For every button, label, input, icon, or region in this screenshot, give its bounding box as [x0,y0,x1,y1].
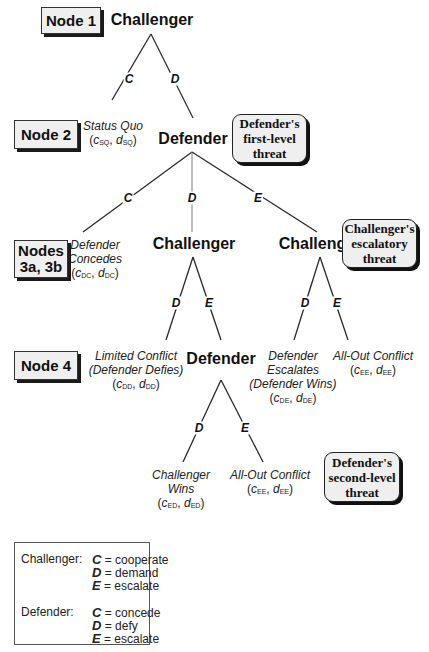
branch-label-n1-c: C [124,73,135,86]
outcome-dd-line2: (Defender Defies) [89,363,184,377]
player-node3a-challenger: Challenger [153,235,236,253]
branch-label-n2-d: D [187,192,198,205]
threat-second-line2: second-level [328,470,395,485]
threat-escalatory-line2: escalatory [351,236,407,251]
threat-defender-second-level: Defender's second-level threat [324,452,400,502]
branch-label-n4-e: E [240,422,250,435]
legend-defender-label: Defender: [21,605,74,619]
threat-first-line1: Defender's [240,116,300,131]
outcome-ed-line1: Challenger [152,468,210,482]
node-1-label: Node 1 [41,7,101,34]
outcome-de-line2: Escalates [249,363,336,377]
node-4-label: Node 4 [14,351,78,380]
outcome-status-quo-label: Status Quo [83,119,143,133]
player-node4-defender: Defender [186,350,255,368]
threat-escalatory-line1: Challenger's [344,221,414,236]
outcome-challenger-wins: Challenger Wins (cED, dED) [152,468,210,513]
outcome-limited-conflict: Limited Conflict (Defender Defies) (cDD,… [89,349,184,394]
payoff-de: (cDE, dDE) [249,391,336,408]
threat-second-line1: Defender's [332,455,392,470]
outcome-all-out-conflict-2: All-Out Conflict (cEE, dEE) [230,468,310,499]
outcome-dc-line2: Concedes [68,252,122,266]
outcome-defender-concedes: Defender Concedes (cDC, dDC) [68,238,122,283]
player-node2-defender: Defender [158,130,227,148]
threat-challenger-escalatory: Challenger's escalatory threat [342,219,417,268]
legend-challenger-label: Challenger: [21,552,82,566]
payoff-sq: (cSQ, dSQ) [83,133,143,150]
outcome-de-line3: (Defender Wins) [249,377,336,391]
outcome-ee1-line1: All-Out Conflict [333,349,413,363]
threat-defender-first-level: Defender's first-level threat [232,114,307,163]
legend-box: Challenger: C = cooperate D = demand E =… [14,542,150,645]
payoff-ee1: (cEE, dEE) [333,363,413,380]
branch-label-n3b-e: E [332,297,342,310]
branch-label-n2-e: E [253,192,263,205]
branch-label-n3b-d: D [300,297,311,310]
threat-escalatory-line3: threat [363,251,397,266]
outcome-dc-line1: Defender [68,238,122,252]
branch-label-n1-d: D [170,73,181,86]
outcome-defender-escalates: Defender Escalates (Defender Wins) (cDE,… [249,349,336,408]
node-3-label: Nodes 3a, 3b [14,240,68,278]
payoff-dd: (cDD, dDD) [89,377,184,394]
node-3-text-line2: 3a, 3b [20,259,63,275]
payoff-ee2: (cEE, dEE) [230,482,310,499]
node-2-text: Node 2 [21,127,71,143]
node-2-label: Node 2 [14,120,78,149]
outcome-status-quo: Status Quo (cSQ, dSQ) [83,119,143,150]
legend-defender-e: E = escalate [92,631,159,646]
branch-label-n3a-d: D [171,297,182,310]
player-node1-challenger: Challenger [111,11,194,29]
branch-label-n2-c: C [123,192,134,205]
node-4-text: Node 4 [21,358,71,374]
payoff-dc: (cDC, dDC) [68,266,122,283]
threat-first-line2: first-level [243,131,296,146]
threat-first-line3: threat [253,146,287,161]
payoff-ed: (cED, dED) [152,496,210,513]
legend-challenger-e: E = escalate [92,578,159,593]
branch-label-n3a-e: E [204,297,214,310]
node-1-text: Node 1 [46,13,96,29]
node-3-text-line1: Nodes [18,243,64,259]
outcome-ed-line2: Wins [152,482,210,496]
outcome-dd-line1: Limited Conflict [89,349,184,363]
outcome-de-line1: Defender [249,349,336,363]
branch-label-n4-d: D [194,422,205,435]
outcome-ee2-line1: All-Out Conflict [230,468,310,482]
threat-second-line3: threat [345,485,379,500]
outcome-all-out-conflict-1: All-Out Conflict (cEE, dEE) [333,349,413,380]
